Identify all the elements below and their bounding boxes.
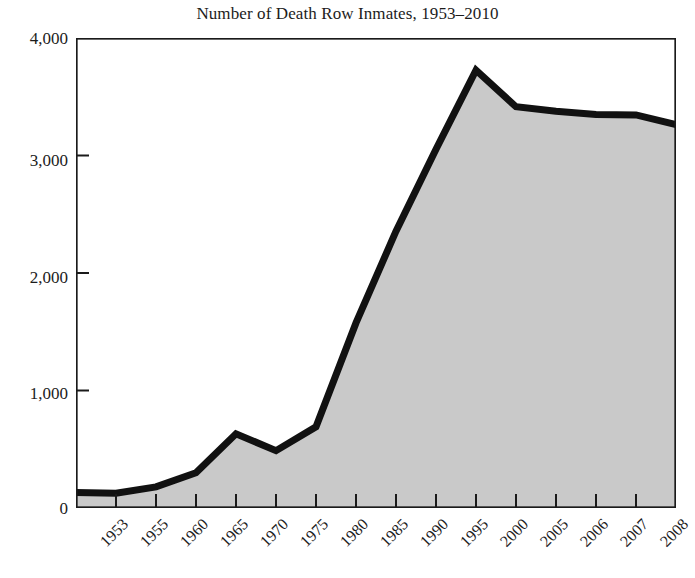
- x-axis-tick-label: 1975: [297, 516, 331, 550]
- x-axis-tick-label: 1990: [417, 516, 451, 550]
- x-axis-tick-label: 2000: [497, 516, 531, 550]
- x-axis-tick-label: 2008: [657, 516, 691, 550]
- x-axis-tick-label: 1995: [457, 516, 491, 550]
- x-axis-tick-label: 1965: [217, 516, 251, 550]
- x-axis-tick-label: 1960: [177, 516, 211, 550]
- x-axis-tick-label: 1985: [377, 516, 411, 550]
- x-axis-tick-label: 1970: [257, 516, 291, 550]
- x-axis-tick-label: 1980: [337, 516, 371, 550]
- x-axis-tick-label: 2006: [577, 516, 611, 550]
- x-axis-tick-labels: 1953195519601965197019751980198519901995…: [0, 0, 695, 578]
- x-axis-tick-label: 1953: [97, 516, 131, 550]
- x-axis-tick-label: 1955: [137, 516, 171, 550]
- x-axis-tick-label: 2005: [537, 516, 571, 550]
- chart-figure: Number of Death Row Inmates, 1953–2010 4…: [0, 0, 695, 578]
- x-axis-tick-label: 2007: [617, 516, 651, 550]
